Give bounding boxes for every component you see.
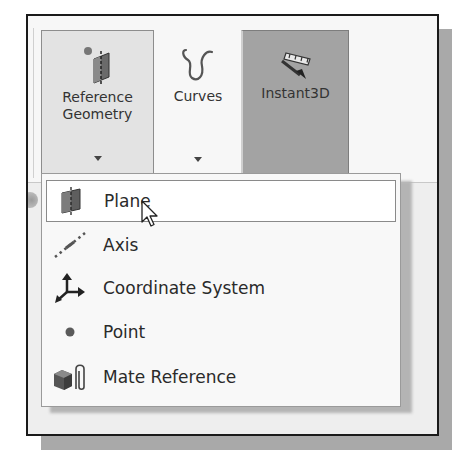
menu-item-plane[interactable]: Plane xyxy=(46,180,396,222)
menu-item-mate-reference[interactable]: Mate Reference xyxy=(46,356,396,398)
curves-icon xyxy=(180,46,216,84)
curves-button[interactable]: Curves xyxy=(155,30,241,174)
ribbon-divider xyxy=(33,28,34,178)
menu-item-axis[interactable]: Axis xyxy=(46,224,396,266)
label-line-2: Geometry xyxy=(63,106,133,122)
instant3d-button[interactable]: Instant3D xyxy=(241,30,349,174)
coordinate-system-icon xyxy=(53,272,87,304)
point-icon xyxy=(63,325,77,339)
dropdown-arrow-icon[interactable] xyxy=(194,157,202,162)
reference-geometry-icon xyxy=(81,45,115,85)
reference-geometry-button[interactable]: Reference Geometry xyxy=(41,30,154,174)
dropdown-arrow-icon[interactable] xyxy=(94,156,102,161)
menu-item-label: Mate Reference xyxy=(103,367,236,387)
menu-item-label: Coordinate System xyxy=(103,278,265,298)
menu-item-label: Plane xyxy=(104,191,151,211)
menu-item-point[interactable]: Point xyxy=(46,311,396,353)
label-line-1: Curves xyxy=(174,88,223,104)
axis-icon xyxy=(53,231,87,259)
curves-label: Curves xyxy=(174,88,223,105)
reference-geometry-label: Reference Geometry xyxy=(62,89,133,123)
instant3d-icon xyxy=(278,49,314,81)
instant3d-label: Instant3D xyxy=(261,85,329,102)
menu-item-label: Axis xyxy=(103,235,138,255)
menu-item-coordinate-system[interactable]: Coordinate System xyxy=(46,267,396,309)
screenshot-frame: Reference Geometry Curves xyxy=(26,14,439,436)
label-line-1: Instant3D xyxy=(261,85,329,101)
label-line-1: Reference xyxy=(62,89,133,105)
reference-geometry-dropdown-menu: Plane Axis Coo xyxy=(41,173,401,407)
plane-icon xyxy=(59,187,83,215)
mate-reference-icon xyxy=(52,362,88,392)
menu-item-label: Point xyxy=(103,322,145,342)
